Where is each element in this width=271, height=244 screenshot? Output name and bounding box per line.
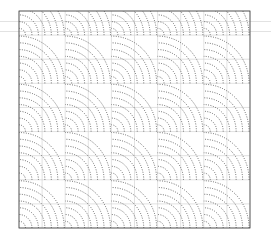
plot-svg (0, 0, 271, 244)
arc-wavefront-curves (19, 0, 271, 228)
figure-canvas (0, 0, 271, 244)
stray-guide-lines (0, 22, 271, 32)
